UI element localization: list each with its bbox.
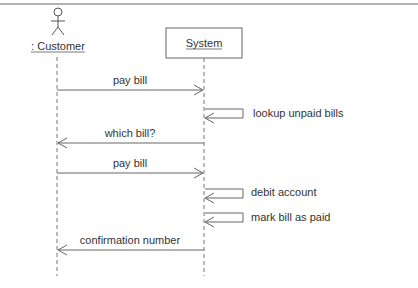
message-mark-bill-as-paid: mark bill as paid bbox=[205, 211, 330, 227]
actor-icon bbox=[51, 8, 65, 35]
message-lookup-unpaid-bills: lookup unpaid bills bbox=[205, 107, 344, 123]
message-label: pay bill bbox=[113, 74, 147, 86]
participant-customer: : Customer bbox=[31, 8, 85, 276]
message-label: confirmation number bbox=[80, 234, 181, 246]
sequence-diagram: : Customer System pay bill lookup unpaid… bbox=[0, 0, 418, 288]
message-label: pay bill bbox=[113, 157, 147, 169]
message-pay-bill-2: pay bill bbox=[57, 157, 203, 178]
message-label: lookup unpaid bills bbox=[253, 107, 344, 119]
message-confirmation-number: confirmation number bbox=[58, 234, 204, 255]
participant-label-system: System bbox=[186, 37, 223, 49]
message-pay-bill-1: pay bill bbox=[57, 74, 203, 95]
message-debit-account: debit account bbox=[205, 186, 316, 203]
participant-label-customer: : Customer bbox=[31, 40, 85, 52]
message-label: mark bill as paid bbox=[251, 211, 330, 223]
message-which-bill: which bill? bbox=[58, 127, 204, 148]
message-label: which bill? bbox=[104, 127, 156, 139]
message-label: debit account bbox=[251, 186, 316, 198]
